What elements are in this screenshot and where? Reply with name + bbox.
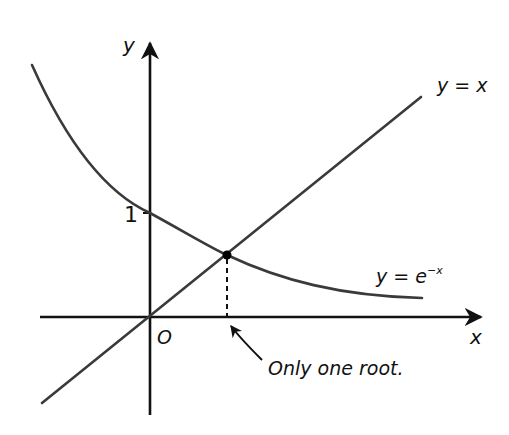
x-axis-label: x <box>469 325 482 349</box>
curve-label-exponent: −x <box>427 264 443 277</box>
intersection-point <box>223 251 232 260</box>
line-label: y = x <box>436 74 488 96</box>
annotation-arrow <box>231 326 262 360</box>
y-axis-label: y <box>122 33 136 57</box>
origin-label: O <box>157 326 172 348</box>
graph-diagram: y x O 1 y = x y = e−x Only one root. <box>0 0 509 435</box>
curve-label: y = e−x <box>375 264 443 287</box>
annotation-text: Only one root. <box>268 357 404 379</box>
y-tick-label: 1 <box>124 202 138 227</box>
